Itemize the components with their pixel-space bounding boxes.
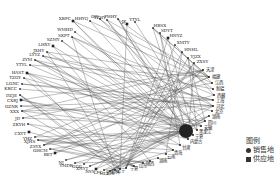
supply-node — [89, 165, 91, 167]
supply-node-label: YJZX — [189, 54, 200, 59]
supply-node-label: YTYL — [128, 17, 140, 22]
supply-node — [28, 131, 31, 134]
supply-node — [22, 117, 24, 119]
supply-node — [26, 72, 29, 75]
supply-node — [174, 44, 176, 46]
sales-node-label: 陕西 — [146, 160, 155, 167]
supply-node — [74, 31, 76, 33]
supply-node — [65, 159, 67, 161]
sales-node-label: 青海 — [174, 149, 183, 156]
sales-node — [212, 105, 214, 107]
supply-node — [117, 18, 119, 20]
supply-node — [34, 136, 36, 138]
supply-node-label: TZGY — [9, 75, 21, 80]
supply-node — [43, 144, 45, 146]
sales-node-label: 湖南 — [106, 169, 115, 176]
legend: 图例 销售地 供应地 — [246, 137, 274, 164]
supply-node — [187, 57, 189, 59]
hub-node — [179, 124, 193, 138]
supply-node-label: HHYQ — [75, 16, 89, 21]
circle-icon — [246, 148, 251, 153]
supply-node — [19, 94, 21, 96]
supply-node — [46, 51, 48, 53]
sales-node-label: 上海 — [216, 97, 225, 104]
legend-item-sales: 销售地 — [246, 146, 274, 155]
supply-node — [49, 148, 51, 150]
supply-node — [21, 110, 23, 112]
supply-node-label: ZKYH — [13, 122, 26, 127]
sales-node — [208, 115, 210, 117]
supply-node-label: SKPT — [58, 33, 70, 38]
legend-label-supply: 供应地 — [253, 155, 274, 164]
supply-node-label: BET — [44, 152, 53, 157]
supply-node — [54, 152, 57, 155]
supply-node — [42, 55, 44, 57]
sales-node-label: 内蒙古 — [190, 138, 203, 145]
supply-node-label: XBPC — [59, 16, 71, 21]
supply-node-label: FHHY — [104, 14, 117, 19]
sales-node — [200, 125, 202, 127]
sales-node-label: 甘肃 — [182, 144, 191, 151]
sales-node — [204, 120, 206, 122]
supply-node — [71, 36, 73, 38]
legend-title: 图例 — [246, 137, 274, 146]
sales-node-label: 云南 — [167, 153, 176, 160]
sales-node — [202, 69, 204, 71]
supply-node — [83, 163, 85, 165]
supply-node — [23, 77, 25, 79]
sales-node-label: 江西 — [215, 79, 224, 86]
sales-node-label: 福建 — [212, 73, 221, 80]
supply-node-label: SZMY — [47, 37, 60, 42]
sales-node — [192, 134, 194, 136]
supply-node — [193, 62, 195, 64]
supply-node — [181, 51, 183, 53]
network-graph: XBPCHHYQGWYZHYFHHYJEYTYLWMHDSKPTSZMYLHXY… — [0, 0, 279, 186]
supply-node-label: LYYZ — [29, 52, 40, 57]
sales-node — [196, 129, 198, 131]
sales-node — [179, 144, 181, 146]
supply-node — [61, 40, 63, 42]
sales-node — [212, 88, 214, 90]
supply-node-label: CXRJ — [7, 98, 18, 103]
legend-item-supply: 供应地 — [246, 155, 274, 164]
supply-node — [20, 99, 23, 102]
supply-node-label: HNHL — [184, 47, 198, 52]
supply-node-label: KRCC — [4, 86, 17, 91]
legend-label-sales: 销售地 — [253, 146, 274, 155]
sales-node-label: 新疆 — [216, 85, 225, 92]
sales-node — [208, 76, 210, 78]
sales-node-label: 湖南 — [159, 157, 168, 164]
supply-node-label: ZXSY — [197, 59, 209, 64]
square-icon — [246, 157, 251, 162]
sales-node-label: 宁夏 — [130, 165, 139, 171]
supply-node — [27, 123, 29, 125]
supply-node — [20, 105, 22, 107]
supply-node-label: HNYZ — [169, 33, 182, 38]
sales-node-label: 山东 — [139, 162, 148, 169]
supply-node — [34, 59, 36, 61]
sales-node — [187, 138, 189, 140]
sales-node — [211, 82, 213, 84]
supply-node-label: XXX — [10, 109, 19, 114]
supply-node-label: YTYL — [15, 62, 27, 67]
supply-node-label: XMTY — [177, 40, 190, 45]
sales-node — [212, 99, 214, 101]
sales-node — [213, 94, 215, 96]
supply-node — [29, 64, 31, 66]
supply-node-label: LHXY — [38, 42, 50, 47]
supply-node — [89, 20, 91, 22]
supply-node-label: JD — [14, 116, 21, 121]
supply-node — [52, 45, 55, 48]
supply-node-label: JE — [121, 19, 127, 24]
supply-node — [106, 19, 108, 21]
supply-node — [21, 83, 23, 85]
supply-node — [19, 88, 21, 90]
sales-node — [211, 110, 213, 112]
supply-node — [37, 139, 39, 141]
sales-node-label: 天津 — [206, 66, 215, 73]
